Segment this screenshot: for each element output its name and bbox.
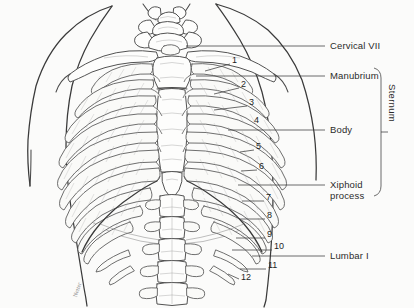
rib-number-9: 9 <box>267 229 272 239</box>
label-sternum: Sternum <box>387 84 398 122</box>
rib-number-10: 10 <box>274 241 284 251</box>
rib-number-5: 5 <box>256 141 261 151</box>
rib-number-12: 12 <box>241 272 251 282</box>
label-lumbar-i: Lumbar I <box>330 250 369 261</box>
rib-number-11: 11 <box>268 260 277 270</box>
rib-number-8: 8 <box>267 210 272 220</box>
rib-number-7: 7 <box>266 192 271 202</box>
label-body: Body <box>330 124 352 135</box>
rib-number-2: 2 <box>241 79 246 89</box>
label-xiphoid-process-line1: Xiphoid <box>330 179 363 190</box>
anatomy-figure: .o { fill:none; stroke:#4a4a4a; stroke-w… <box>0 0 414 308</box>
label-manubrium: Manubrium <box>330 70 379 81</box>
label-cervical-vii: Cervical VII <box>330 40 380 51</box>
rib-number-4: 4 <box>254 115 259 125</box>
rib-number-1: 1 <box>232 55 237 65</box>
sternum-bracket <box>374 68 388 196</box>
rib-number-6: 6 <box>259 161 264 171</box>
rib-number-3: 3 <box>249 97 254 107</box>
label-xiphoid-process-line2: process <box>330 190 364 201</box>
